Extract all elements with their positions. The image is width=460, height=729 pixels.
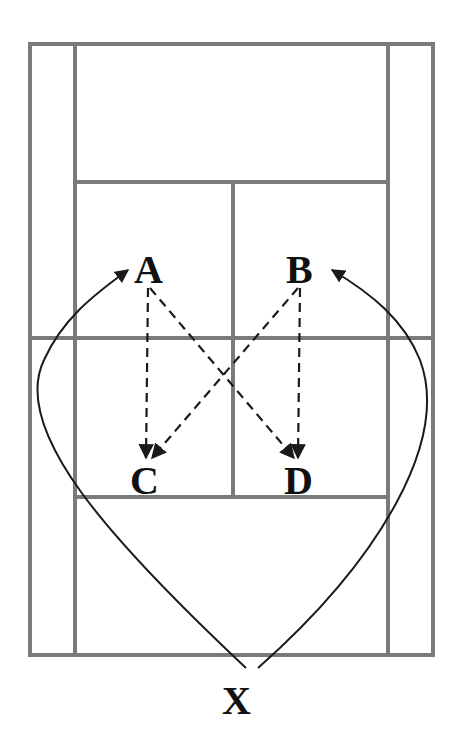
position-labels: A B C D X [130,247,313,723]
dashed-movements [146,288,300,458]
position-label-x: X [222,678,251,723]
path-a-to-d [150,288,294,458]
path-a-to-c [146,288,148,458]
position-label-c: C [130,458,159,503]
path-b-to-c [152,288,298,458]
tennis-court-diagram: A B C D X [0,0,460,729]
position-label-b: B [286,247,313,292]
position-label-d: D [284,458,313,503]
path-b-to-d [298,288,300,458]
position-label-a: A [134,247,163,292]
court [30,44,433,655]
